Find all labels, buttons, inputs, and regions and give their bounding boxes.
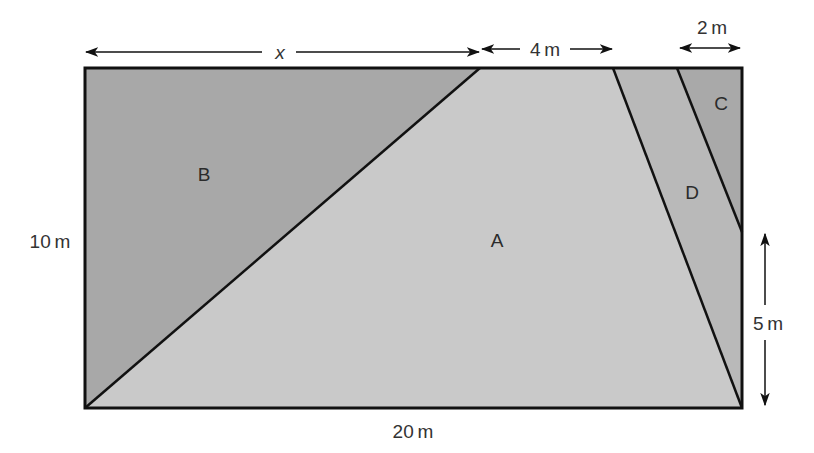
dim-label-20m: 20 m [393, 421, 434, 442]
dim-label-10m: 10 m [30, 231, 71, 252]
region-label-c: C [714, 93, 728, 114]
dim-label-x: x [274, 42, 286, 63]
region-label-b: B [198, 164, 211, 185]
dim-label-2m: 2 m [697, 17, 727, 38]
region-label-a: A [491, 230, 504, 251]
dim-label-5m: 5 m [753, 313, 783, 334]
rectangle-diagram: B A D C x 4 m 2 m 10 m 20 m 5 m [0, 0, 814, 453]
dim-label-4m: 4 m [530, 39, 560, 60]
region-label-d: D [685, 182, 699, 203]
